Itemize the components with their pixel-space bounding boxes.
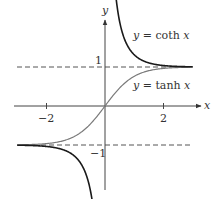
coth-label: y = coth x bbox=[132, 29, 190, 42]
coth-label-rest: = coth bbox=[139, 29, 183, 42]
tick-label-y-1: 1 bbox=[95, 54, 102, 67]
tick-label-y-neg1: −1 bbox=[90, 147, 106, 160]
y-axis-label: y bbox=[101, 4, 109, 17]
tanh-label-rest: = tanh bbox=[139, 79, 184, 92]
chart-canvas: y x −2 2 1 −1 y = coth x y = tanh x bbox=[0, 0, 219, 199]
tick-label-x-2: 2 bbox=[160, 112, 167, 125]
x-axis-label: x bbox=[204, 99, 211, 112]
tanh-label: y = tanh x bbox=[132, 79, 191, 92]
coth-curve-negative-branch bbox=[17, 145, 95, 199]
tick-label-x-neg2: −2 bbox=[38, 112, 54, 125]
